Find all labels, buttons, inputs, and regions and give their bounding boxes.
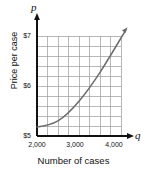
y-axis-title: Price per case <box>10 19 19 103</box>
x-tick-label-4000: 4,000 <box>99 141 129 148</box>
supply-curve <box>37 31 126 127</box>
x-tick-label-2000: 2,000 <box>22 141 52 148</box>
x-axis-variable-label: q <box>135 130 141 141</box>
graph-figure: p q $7 $6 $5 2,000 3,000 4,000 Price per… <box>0 0 147 178</box>
curve-arrowhead <box>122 27 128 33</box>
y-tick-label-5: $5 <box>15 132 31 139</box>
plot-area <box>0 0 147 178</box>
y-axis-arrowhead <box>34 13 40 20</box>
x-axis-title: Number of cases <box>0 156 147 166</box>
y-axis-variable-label: p <box>31 2 37 13</box>
x-axis-arrowhead <box>127 133 134 139</box>
x-tick-label-3000: 3,000 <box>60 141 90 148</box>
